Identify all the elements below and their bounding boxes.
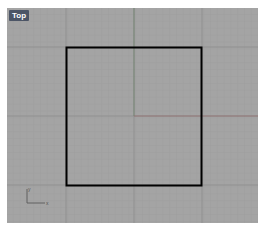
viewport-title-tab[interactable]: Top bbox=[9, 10, 29, 21]
axis-y-label: y bbox=[28, 186, 31, 192]
top-viewport[interactable]: Top y x bbox=[7, 8, 258, 223]
axis-indicator-icon: y x bbox=[19, 186, 51, 208]
axis-x-label: x bbox=[46, 200, 49, 206]
